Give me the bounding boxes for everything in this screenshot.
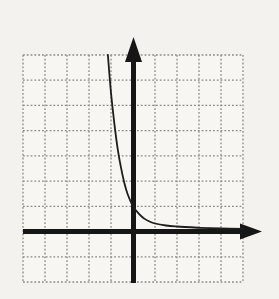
exponential-decay-graph (0, 0, 279, 299)
worksheet-page: 3. (0, 0, 279, 299)
